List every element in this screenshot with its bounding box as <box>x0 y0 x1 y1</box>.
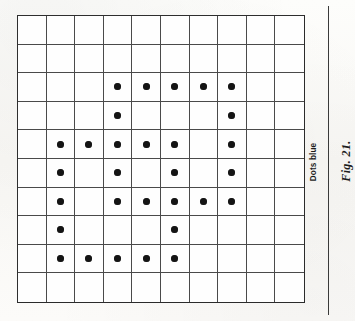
grid-cell[interactable] <box>47 216 76 245</box>
grid-cell[interactable] <box>47 102 76 131</box>
grid-cell[interactable] <box>47 159 76 188</box>
grid-cell[interactable] <box>132 102 161 131</box>
grid-cell[interactable] <box>218 245 247 274</box>
grid-cell[interactable] <box>132 188 161 217</box>
grid-cell[interactable] <box>47 16 76 45</box>
grid-cell[interactable] <box>247 73 276 102</box>
grid-cell[interactable] <box>47 245 76 274</box>
grid-cell[interactable] <box>104 216 133 245</box>
grid-cell[interactable] <box>218 45 247 74</box>
grid-cell[interactable] <box>275 16 304 45</box>
grid-cell[interactable] <box>218 73 247 102</box>
grid-cell[interactable] <box>47 188 76 217</box>
grid-cell[interactable] <box>75 273 104 302</box>
grid-cell[interactable] <box>18 45 47 74</box>
grid-cell[interactable] <box>132 273 161 302</box>
grid-cell[interactable] <box>247 45 276 74</box>
grid-cell[interactable] <box>275 273 304 302</box>
grid-cell[interactable] <box>190 159 219 188</box>
grid-cell[interactable] <box>161 273 190 302</box>
grid-cell[interactable] <box>47 73 76 102</box>
grid-cell[interactable] <box>218 159 247 188</box>
grid-cell[interactable] <box>104 245 133 274</box>
grid-cell[interactable] <box>18 188 47 217</box>
grid-cell[interactable] <box>218 130 247 159</box>
grid-cell[interactable] <box>247 216 276 245</box>
grid-cell[interactable] <box>18 130 47 159</box>
grid-cell[interactable] <box>132 73 161 102</box>
grid-cell[interactable] <box>161 45 190 74</box>
grid-cell[interactable] <box>75 45 104 74</box>
grid-cell[interactable] <box>190 16 219 45</box>
grid-cell[interactable] <box>104 16 133 45</box>
grid-cell[interactable] <box>161 159 190 188</box>
grid-cell[interactable] <box>190 245 219 274</box>
grid-cell[interactable] <box>132 16 161 45</box>
grid-cell[interactable] <box>18 73 47 102</box>
pattern-dot <box>143 198 150 205</box>
grid-cell[interactable] <box>275 102 304 131</box>
grid-cell[interactable] <box>161 130 190 159</box>
grid-cell[interactable] <box>218 16 247 45</box>
grid-cell[interactable] <box>132 245 161 274</box>
grid-cell[interactable] <box>218 188 247 217</box>
grid-cell[interactable] <box>132 45 161 74</box>
grid-cell[interactable] <box>18 102 47 131</box>
grid-cell[interactable] <box>190 188 219 217</box>
grid-cell[interactable] <box>247 159 276 188</box>
grid-cell[interactable] <box>47 273 76 302</box>
grid-cell[interactable] <box>132 159 161 188</box>
grid-cell[interactable] <box>247 130 276 159</box>
grid-cell[interactable] <box>18 159 47 188</box>
grid-cell[interactable] <box>161 216 190 245</box>
grid-cell[interactable] <box>161 73 190 102</box>
grid-cell[interactable] <box>190 102 219 131</box>
grid-cell[interactable] <box>75 216 104 245</box>
grid-cell[interactable] <box>104 159 133 188</box>
grid-cell[interactable] <box>104 73 133 102</box>
grid-cell[interactable] <box>161 245 190 274</box>
grid-cell[interactable] <box>132 216 161 245</box>
grid-cell[interactable] <box>218 273 247 302</box>
grid-cell[interactable] <box>275 73 304 102</box>
grid-cell[interactable] <box>75 130 104 159</box>
grid-cell[interactable] <box>161 16 190 45</box>
grid-cell[interactable] <box>104 273 133 302</box>
grid-cell[interactable] <box>190 216 219 245</box>
grid-cell[interactable] <box>75 159 104 188</box>
grid-cell[interactable] <box>75 73 104 102</box>
grid-cell[interactable] <box>247 16 276 45</box>
grid-cell[interactable] <box>247 188 276 217</box>
grid-cell[interactable] <box>247 102 276 131</box>
grid-cell[interactable] <box>218 102 247 131</box>
grid-cell[interactable] <box>47 130 76 159</box>
grid-cell[interactable] <box>132 130 161 159</box>
grid-cell[interactable] <box>161 102 190 131</box>
grid-cell[interactable] <box>18 216 47 245</box>
grid-cell[interactable] <box>218 216 247 245</box>
grid-cell[interactable] <box>247 245 276 274</box>
grid-cell[interactable] <box>18 16 47 45</box>
grid-cell[interactable] <box>104 102 133 131</box>
grid-cell[interactable] <box>104 45 133 74</box>
grid-cell[interactable] <box>190 45 219 74</box>
pattern-dot <box>57 141 64 148</box>
grid-cell[interactable] <box>275 45 304 74</box>
grid-cell[interactable] <box>190 273 219 302</box>
grid-cell[interactable] <box>47 45 76 74</box>
grid-cell[interactable] <box>247 273 276 302</box>
grid-cell[interactable] <box>104 188 133 217</box>
grid-cell[interactable] <box>104 130 133 159</box>
grid-cell[interactable] <box>275 245 304 274</box>
grid-cell[interactable] <box>275 188 304 217</box>
grid-cell[interactable] <box>190 73 219 102</box>
grid-cell[interactable] <box>75 16 104 45</box>
grid-cell[interactable] <box>190 130 219 159</box>
grid-cell[interactable] <box>161 188 190 217</box>
grid-cell[interactable] <box>18 273 47 302</box>
grid-cell[interactable] <box>75 245 104 274</box>
grid-cell[interactable] <box>75 102 104 131</box>
grid-cell[interactable] <box>275 216 304 245</box>
grid-cell[interactable] <box>18 245 47 274</box>
grid-cell[interactable] <box>75 188 104 217</box>
